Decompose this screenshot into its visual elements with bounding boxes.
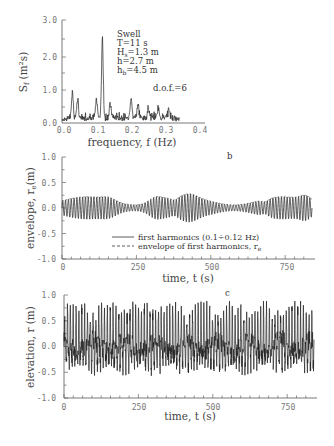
panel-b-x-axis-title: time, t (s) xyxy=(162,272,214,284)
panel-c-xtick-250: 250 xyxy=(132,403,147,412)
panel-b-xtick-0: 0 xyxy=(61,263,66,272)
panel-c-y-axis-title: elevation, r (m) xyxy=(24,306,36,388)
panel-c-elevation: 1.0 0.5 0.0 -0.5 -1.0 0 250 500 750 time… xyxy=(24,288,317,422)
panel-c-ytick-05: 0.5 xyxy=(42,317,57,326)
panel-b-label: b xyxy=(227,151,233,161)
panel-b-legend: first harmonics (0.1÷0.12 Hz) envelope o… xyxy=(112,233,262,252)
panel-b-ytick-m05: -0.5 xyxy=(37,230,56,239)
panel-a-annotation: Swell T=11 s Hs=1.3 m h=2.7 m hb=4.5 m d… xyxy=(117,29,187,93)
panel-b-y-axis-title: envelope, re(m) xyxy=(24,167,38,249)
panel-c-label: c xyxy=(225,288,230,298)
panel-c-xtick-0: 0 xyxy=(62,403,67,412)
panel-b-ytick-1: 1.0 xyxy=(42,153,57,162)
panel-b-ytick-0: 0.0 xyxy=(42,204,57,213)
panel-a-spectrum: 3.0 2.0 1.0 0.0 0.0 0.1 0.2 0.3 0.4 freq… xyxy=(17,16,207,148)
panel-a-ytick-0: 0.0 xyxy=(43,119,58,128)
legend-dashed-label: envelope of first harmonics, re xyxy=(138,242,262,252)
panel-c-xtick-750: 750 xyxy=(281,403,296,412)
panel-a-xtick-3: 0.3 xyxy=(159,126,174,135)
figure-canvas: 3.0 2.0 1.0 0.0 0.0 0.1 0.2 0.3 0.4 freq… xyxy=(0,0,334,446)
panel-c-ytick-m05: -0.5 xyxy=(37,368,56,377)
panel-b-xtick-250: 250 xyxy=(131,263,146,272)
panel-a-y-ticks xyxy=(62,20,66,107)
panel-a-y-axis-title: Sf(m²s) xyxy=(17,52,31,93)
panel-c-ytick-1: 1.0 xyxy=(42,291,57,300)
panel-b-ytick-m1: -1.0 xyxy=(37,255,56,264)
panel-c-ytick-0: 0.0 xyxy=(42,342,57,351)
panel-a-ytick-1: 1.0 xyxy=(43,86,58,95)
panel-b-xtick-750: 750 xyxy=(280,263,295,272)
svg-text:Sf(m²s): Sf(m²s) xyxy=(17,52,31,93)
svg-text:envelope, re(m): envelope, re(m) xyxy=(24,167,38,249)
panel-b-envelope: 1.0 0.5 0.0 -0.5 -1.0 0 250 500 750 time… xyxy=(24,151,315,284)
svg-text:hb=4.5 m: hb=4.5 m xyxy=(117,65,158,76)
panel-b-ytick-05: 0.5 xyxy=(42,179,57,188)
panel-a-xtick-2: 0.2 xyxy=(125,126,140,135)
panel-c-ytick-m1: -1.0 xyxy=(37,394,56,403)
panel-a-ytick-3: 3.0 xyxy=(43,16,58,25)
first-harmonics-trace xyxy=(62,194,312,222)
dof-label: d.o.f.=6 xyxy=(153,83,187,93)
panel-a-x-axis-title: frequency, f (Hz) xyxy=(88,136,177,148)
panel-a-xtick-0: 0.0 xyxy=(57,126,72,135)
panel-a-ytick-2: 2.0 xyxy=(43,53,58,62)
panel-c-x-axis-title: time, t (s) xyxy=(164,410,216,422)
svg-text:elevation, r (m): elevation, r (m) xyxy=(24,306,36,388)
panel-b-xtick-500: 500 xyxy=(205,263,220,272)
panel-a-xtick-1: 0.1 xyxy=(91,126,106,135)
elevation-trace xyxy=(64,301,314,376)
panel-a-xtick-4: 0.4 xyxy=(193,126,208,135)
legend-solid-label: first harmonics (0.1÷0.12 Hz) xyxy=(138,233,259,242)
